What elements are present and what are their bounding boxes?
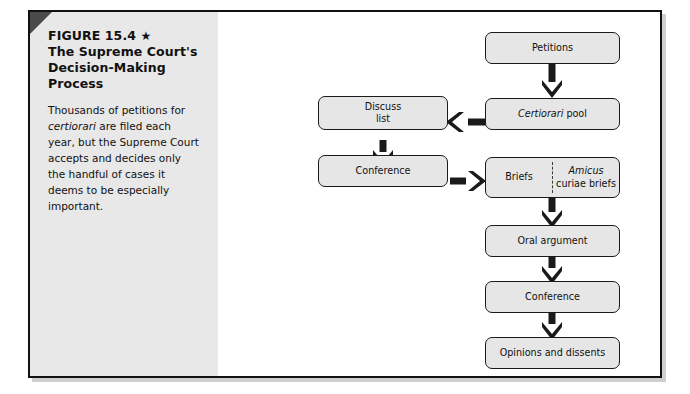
node-certiorari-pool-label: Certiorari pool	[518, 108, 587, 120]
node-conference-second-label: Conference	[525, 291, 580, 303]
node-opinions-and-dissents-label: Opinions and dissents	[500, 347, 606, 359]
node-oral-argument[interactable]: Oral argument	[485, 225, 620, 257]
caption-segment-1: Thousands of petitions for	[48, 104, 185, 116]
figure-title-line-2: Decision-Making	[48, 60, 166, 75]
flowchart-area: Petitions Certiorari pool Discusslist Co…	[218, 12, 660, 376]
node-briefs-half[interactable]: Briefs	[486, 158, 552, 197]
node-conference-first[interactable]: Conference	[318, 155, 448, 187]
figure-caption-text: Thousands of petitions for certiorari ar…	[48, 103, 200, 215]
figure-root: FIGURE 15.4 ★ The Supreme Court's Decisi…	[0, 0, 690, 394]
node-petitions-label: Petitions	[532, 42, 573, 54]
node-amicus-label: Amicuscuriae briefs	[556, 165, 616, 190]
node-conference-second[interactable]: Conference	[485, 281, 620, 313]
node-conference-first-label: Conference	[356, 165, 411, 177]
arrow-conference-to-opinions	[542, 313, 562, 340]
caption-segment-2: are filed each year, but the Supreme Cou…	[48, 120, 199, 212]
node-certiorari-pool[interactable]: Certiorari pool	[485, 98, 620, 130]
node-opinions-and-dissents[interactable]: Opinions and dissents	[485, 337, 620, 369]
figure-title: FIGURE 15.4 ★ The Supreme Court's Decisi…	[48, 28, 200, 92]
figure-title-line-1: The Supreme Court's	[48, 44, 198, 59]
arrow-oral-argument-to-conference	[542, 257, 562, 284]
caption-content: FIGURE 15.4 ★ The Supreme Court's Decisi…	[48, 28, 200, 215]
node-amicus-half[interactable]: Amicuscuriae briefs	[553, 158, 619, 197]
node-petitions[interactable]: Petitions	[485, 32, 620, 64]
node-briefs-label: Briefs	[505, 171, 532, 183]
star-icon: ★	[141, 29, 152, 43]
arrow-cert-pool-to-discuss-list	[446, 112, 486, 132]
arrow-briefs-to-oral-argument	[542, 198, 562, 228]
caption-italic-certiorari: certiorari	[48, 120, 96, 132]
node-discuss-list[interactable]: Discusslist	[318, 96, 448, 130]
figure-caption-panel: FIGURE 15.4 ★ The Supreme Court's Decisi…	[30, 12, 218, 376]
figure-number: FIGURE 15.4	[48, 28, 136, 43]
node-discuss-list-label: Discusslist	[365, 101, 401, 126]
node-briefs-amicus[interactable]: Briefs Amicuscuriae briefs	[485, 157, 620, 198]
figure-title-line-3: Process	[48, 76, 103, 91]
arrow-petitions-to-cert-pool	[542, 64, 562, 98]
arrow-conference-to-briefs	[450, 171, 486, 191]
node-oral-argument-label: Oral argument	[517, 235, 587, 247]
figure-frame: FIGURE 15.4 ★ The Supreme Court's Decisi…	[28, 10, 662, 378]
